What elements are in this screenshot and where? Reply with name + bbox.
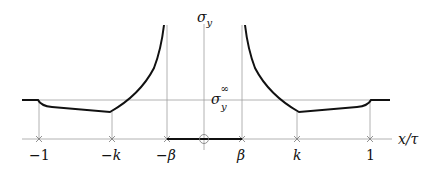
- stress-curve: [22, 25, 390, 139]
- tick-label-1: 1: [366, 148, 375, 162]
- tick-label-minus-beta: −β: [156, 148, 176, 162]
- stress-diagram: [0, 0, 435, 169]
- tick-label-k: k: [293, 148, 301, 162]
- tick-label-minus-k: −k: [101, 148, 121, 162]
- y-axis-label: σy: [197, 10, 212, 28]
- tick-label-beta: β: [237, 148, 245, 162]
- x-axis-label: x/τ: [398, 132, 418, 146]
- reference-level-label: σ∞y: [211, 90, 235, 109]
- tick-label-minus-1: −1: [29, 148, 50, 162]
